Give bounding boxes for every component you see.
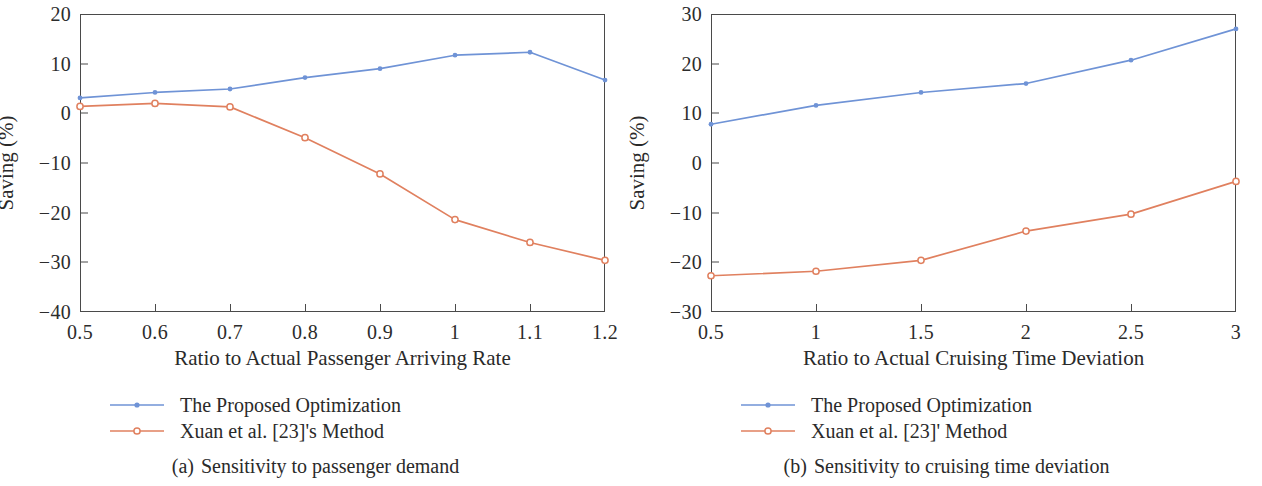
x-tick-label: 1: [450, 322, 460, 342]
legend-item-xuan-b: Xuan et al. [23]' Method: [741, 418, 1181, 444]
y-tick-label: −10: [670, 203, 702, 223]
y-tick-label: −20: [39, 203, 71, 223]
legend-label-proposed-a: The Proposed Optimization: [180, 394, 401, 417]
x-tick-label: 1.2: [592, 322, 618, 342]
y-tick-mark: [80, 163, 88, 164]
y-tick-label: −10: [39, 153, 71, 173]
legend-marker-open-circle-icon: [110, 424, 164, 438]
data-point-marker: [919, 90, 924, 95]
x-tick-label: 2.5: [1118, 322, 1144, 342]
y-tick-mark: [711, 163, 719, 164]
series-line: [711, 29, 1236, 124]
y-tick-label: −30: [670, 302, 702, 322]
data-point-marker: [527, 239, 533, 245]
x-tick-label: 0.9: [367, 322, 393, 342]
y-tick-mark: [711, 63, 719, 64]
x-tick-label: 1.1: [517, 322, 543, 342]
legend-marker-filled-dot-icon: [741, 398, 795, 412]
y-axis-label-b: Saving (%): [625, 115, 650, 210]
data-point-marker: [528, 50, 533, 55]
series-line: [711, 181, 1236, 275]
y-tick-mark: [80, 212, 88, 213]
x-axis-label-a: Ratio to Actual Passenger Arriving Rate: [80, 346, 605, 371]
y-tick-label: 10: [681, 103, 702, 123]
x-tick-label: 0.5: [698, 322, 724, 342]
data-point-marker: [302, 135, 308, 141]
x-tick-label: 3: [1231, 322, 1241, 342]
legend-label-proposed-b: The Proposed Optimization: [811, 394, 1032, 417]
caption-tag-a: (a): [172, 455, 194, 477]
y-tick-label: 10: [50, 54, 71, 74]
data-point-marker: [1234, 27, 1239, 32]
x-tick-mark: [230, 304, 231, 312]
x-tick-mark: [816, 304, 817, 312]
x-tick-mark: [1131, 304, 1132, 312]
series-line: [80, 103, 605, 260]
legend-item-xuan-a: Xuan et al. [23]'s Method: [110, 418, 550, 444]
data-point-marker: [303, 75, 308, 80]
x-tick-label: 0.7: [217, 322, 243, 342]
data-point-marker: [377, 171, 383, 177]
plot-lines-a: [80, 14, 605, 312]
y-tick-label: 0: [692, 153, 702, 173]
data-point-marker: [452, 217, 458, 223]
caption-text-b: Sensitivity to cruising time deviation: [814, 455, 1110, 477]
data-point-marker: [603, 78, 608, 83]
data-point-marker: [453, 53, 458, 58]
data-point-marker: [78, 96, 83, 101]
x-tick-label: 0.6: [142, 322, 168, 342]
legend-item-proposed-a: The Proposed Optimization: [110, 392, 550, 418]
y-tick-label: 20: [50, 4, 71, 24]
data-point-marker: [77, 103, 83, 109]
x-tick-label: 1.5: [908, 322, 934, 342]
y-tick-mark: [80, 113, 88, 114]
data-point-marker: [813, 268, 819, 274]
y-tick-mark: [80, 262, 88, 263]
legend-item-proposed-b: The Proposed Optimization: [741, 392, 1181, 418]
legend-marker-filled-dot-icon: [110, 398, 164, 412]
data-point-marker: [814, 103, 819, 108]
plot-area-a: 20100−10−20−30−400.50.60.70.80.911.11.2: [80, 14, 605, 312]
data-point-marker: [709, 122, 714, 127]
x-tick-mark: [530, 304, 531, 312]
y-axis-label-a: Saving (%): [0, 115, 19, 210]
data-point-marker: [378, 66, 383, 71]
legend-b: The Proposed Optimization Xuan et al. [2…: [741, 392, 1181, 444]
legend-a: The Proposed Optimization Xuan et al. [2…: [110, 392, 550, 444]
data-point-marker: [602, 257, 608, 263]
y-tick-label: −30: [39, 252, 71, 272]
caption-tag-b: (b): [784, 455, 807, 477]
x-tick-mark: [305, 304, 306, 312]
data-point-marker: [1233, 178, 1239, 184]
plot-lines-b: [711, 14, 1236, 312]
x-tick-mark: [921, 304, 922, 312]
x-tick-mark: [380, 304, 381, 312]
panel-a: Saving (%) 20100−10−20−30−400.50.60.70.8…: [0, 0, 631, 486]
data-point-marker: [918, 257, 924, 263]
y-tick-label: 0: [61, 103, 71, 123]
figure-root: Saving (%) 20100−10−20−30−400.50.60.70.8…: [0, 0, 1262, 486]
x-tick-label: 0.8: [292, 322, 318, 342]
caption-b: (b)Sensitivity to cruising time deviatio…: [631, 455, 1262, 478]
data-point-marker: [153, 90, 158, 95]
y-tick-label: −20: [670, 252, 702, 272]
y-tick-label: 30: [681, 4, 702, 24]
data-point-marker: [227, 104, 233, 110]
data-point-marker: [1024, 81, 1029, 86]
panel-b: Saving (%) 3020100−10−20−300.511.522.53 …: [631, 0, 1262, 486]
plot-area-b: 3020100−10−20−300.511.522.53: [711, 14, 1236, 312]
x-tick-mark: [455, 304, 456, 312]
caption-text-a: Sensitivity to passenger demand: [201, 455, 459, 477]
y-tick-mark: [711, 113, 719, 114]
x-tick-mark: [155, 304, 156, 312]
data-point-marker: [1128, 211, 1134, 217]
y-tick-label: 20: [681, 54, 702, 74]
x-tick-label: 2: [1021, 322, 1031, 342]
x-tick-mark: [1026, 304, 1027, 312]
data-point-marker: [1023, 228, 1029, 234]
y-tick-mark: [711, 262, 719, 263]
y-tick-mark: [80, 63, 88, 64]
y-tick-mark: [711, 212, 719, 213]
x-tick-label: 0.5: [67, 322, 93, 342]
y-tick-label: −40: [39, 302, 71, 322]
